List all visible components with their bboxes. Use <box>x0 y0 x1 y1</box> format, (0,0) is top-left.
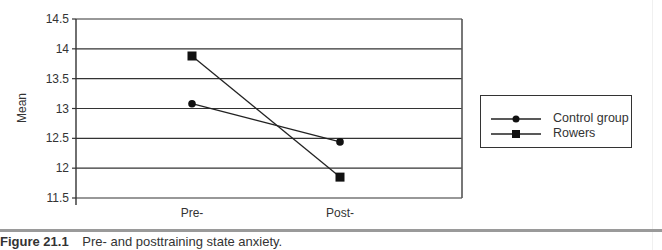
legend-label: Control group <box>553 111 629 125</box>
y-axis-ticks: 14.51413.51312.51211.5 <box>46 12 76 205</box>
x-axis-ticks: Pre-Post- <box>181 206 354 220</box>
y-tick-label: 13 <box>56 102 70 116</box>
y-tick-label: 14.5 <box>46 12 70 26</box>
legend-item-control-group: Control group <box>481 112 631 126</box>
square-marker-icon <box>491 127 541 141</box>
y-tick-label: 13.5 <box>46 72 70 86</box>
x-tick-label: Post- <box>326 206 354 220</box>
y-axis-label: Mean <box>15 93 29 123</box>
legend-label: Rowers <box>553 126 595 140</box>
caption-divider <box>0 229 662 232</box>
caption-text: Pre- and posttraining state anxiety. <box>82 234 282 249</box>
y-tick-label: 14 <box>56 42 70 56</box>
figure-number: Figure 21.1 <box>0 234 69 249</box>
x-tick-label: Pre- <box>181 206 204 220</box>
y-tick-label: 12.5 <box>46 131 70 145</box>
legend: Control group Rowers <box>480 95 632 148</box>
figure-caption: Figure 21.1 Pre- and posttraining state … <box>0 234 282 249</box>
circle-marker-icon <box>491 112 541 126</box>
y-tick-label: 12 <box>56 161 70 175</box>
legend-item-rowers: Rowers <box>481 127 631 141</box>
gridlines <box>76 19 462 205</box>
y-tick-label: 11.5 <box>47 191 70 205</box>
data-series <box>188 51 345 181</box>
